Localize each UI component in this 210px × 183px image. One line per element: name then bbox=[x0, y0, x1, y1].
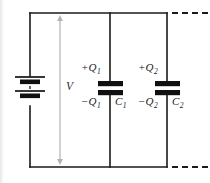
battery-plate-short-bottom bbox=[20, 94, 40, 99]
circuit-diagram-figure: V +Q1 −Q1 C1 +Q2 −Q2 C2 bbox=[0, 0, 210, 183]
voltage-label: V bbox=[66, 81, 73, 93]
capacitor2-top-charge-label: +Q2 bbox=[138, 62, 158, 73]
capacitor1-top-charge-label: +Q1 bbox=[81, 62, 101, 73]
voltage-arrow-head-down bbox=[57, 159, 63, 165]
circuit-canvas bbox=[0, 0, 210, 183]
capacitor2-plate-top bbox=[155, 81, 180, 86]
capacitor2-name-label: C2 bbox=[172, 96, 184, 107]
voltage-arrow-head-up bbox=[57, 15, 63, 21]
capacitor2-bottom-charge-label: −Q2 bbox=[138, 96, 158, 107]
capacitor1-bottom-charge-label: −Q1 bbox=[81, 96, 101, 107]
capacitor1-plate-top bbox=[98, 81, 123, 86]
battery-plate-short-top bbox=[20, 80, 40, 85]
capacitor1-name-label: C1 bbox=[115, 96, 127, 107]
